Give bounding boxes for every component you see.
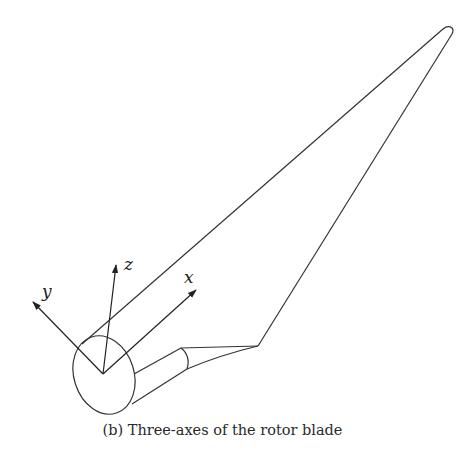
- blade-leading-edge: [82, 29, 443, 344]
- blade-tip: [443, 27, 453, 34]
- rotor-blade-diagram: y z x: [0, 0, 473, 466]
- z-axis-arrow: [103, 265, 116, 374]
- root-section-arc: [181, 348, 188, 369]
- x-axis-label: x: [184, 267, 194, 287]
- blade-trailing-edge: [258, 34, 452, 346]
- z-axis-label: z: [123, 254, 134, 274]
- blade-outline: [82, 27, 453, 404]
- y-axis-label: y: [41, 281, 52, 301]
- figure-caption-text: (b) Three-axes of the rotor blade: [103, 422, 343, 438]
- coordinate-axes: [33, 265, 196, 374]
- figure-caption: (b) Three-axes of the rotor blade: [0, 422, 473, 438]
- root-cylinder-top-edge: [134, 348, 181, 374]
- blade-transition-lower: [187, 346, 258, 369]
- x-axis-arrow: [103, 290, 196, 374]
- blade-root-ellipse: [63, 328, 145, 423]
- y-axis-arrow: [33, 302, 103, 374]
- root-cylinder-bottom-edge: [132, 369, 187, 404]
- blade-transition-upper: [181, 346, 258, 348]
